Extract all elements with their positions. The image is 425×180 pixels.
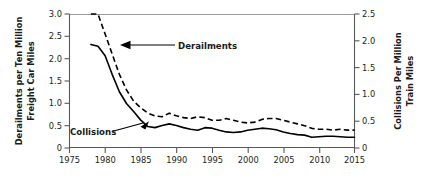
left-axis-title-line2: Freight Car Miles [26, 41, 36, 121]
x-tick-label-2000: 2000 [238, 155, 259, 165]
right-tick-label-1: 0.5 [362, 116, 375, 126]
left-axis-title: Derailments per Ten Million Freight Car … [14, 17, 36, 146]
x-tick-label-1990: 1990 [166, 155, 187, 165]
left-tick-label-3: 1.5 [49, 76, 62, 86]
derailments-label: Derailments [178, 41, 237, 51]
right-tick-label-2: 1.0 [362, 89, 375, 99]
right-tick-label-4: 2.0 [362, 36, 375, 46]
x-axis-tick-labels: 1975 1980 1985 1990 1995 2000 2005 2010 … [59, 155, 365, 165]
x-tick-label-2005: 2005 [273, 155, 294, 165]
left-axis-tick-labels: 0 0.5 1.0 1.5 2.0 2.5 3.0 [49, 9, 62, 153]
x-tick-label-1980: 1980 [95, 155, 116, 165]
left-tick-label-5: 2.5 [49, 31, 62, 41]
collisions-label: Collisions [70, 127, 116, 137]
x-tick-label-1975: 1975 [59, 155, 80, 165]
left-tick-label-6: 3.0 [49, 9, 62, 19]
left-tick-label-1: 0.5 [49, 121, 62, 131]
left-axis-title-line1: Derailments per Ten Million [14, 17, 24, 146]
left-tick-label-4: 2.0 [49, 54, 62, 64]
right-axis-title-line2: Train Miles [405, 56, 415, 107]
x-tick-label-2010: 2010 [309, 155, 330, 165]
right-tick-label-5: 2.5 [362, 9, 375, 19]
x-tick-label-1995: 1995 [202, 155, 223, 165]
right-axis-title: Collisions Per Million Train Miles [393, 32, 415, 130]
left-tick-label-0: 0 [57, 143, 62, 153]
x-axis-ticks [70, 148, 355, 153]
right-axis-title-line1: Collisions Per Million [393, 32, 403, 130]
right-tick-label-0: 0 [362, 143, 367, 153]
right-axis-tick-labels: 0 0.5 1.0 1.5 2.0 2.5 [362, 9, 375, 153]
right-tick-label-3: 1.5 [362, 63, 375, 73]
left-tick-label-2: 1.0 [49, 98, 62, 108]
x-tick-label-2015: 2015 [344, 155, 365, 165]
right-axis-ticks [355, 14, 360, 148]
left-axis-ticks [65, 14, 70, 148]
chart-container: 0 0.5 1.0 1.5 2.0 2.5 3.0 0 0.5 1.0 1.5 … [0, 0, 425, 180]
dual-axis-line-chart: 0 0.5 1.0 1.5 2.0 2.5 3.0 0 0.5 1.0 1.5 … [0, 0, 425, 180]
x-tick-label-1985: 1985 [130, 155, 151, 165]
